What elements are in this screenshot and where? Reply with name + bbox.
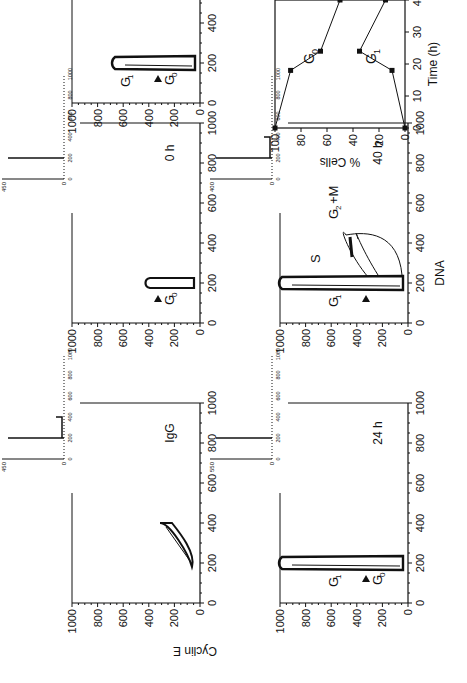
x-tick-label: 0	[411, 125, 423, 131]
inset-ymin: 0	[269, 181, 275, 185]
inset-tick-label: 800	[67, 370, 73, 379]
x-tick-label: 800	[414, 154, 426, 172]
x-tick-label: 600	[414, 194, 426, 212]
x-tick-label: 0	[206, 320, 218, 326]
x-tick-label: 400	[206, 234, 218, 252]
y-tick-label: 1000	[274, 609, 286, 633]
y-tick-label: 1000	[66, 109, 78, 133]
x-tick-label: 400	[206, 14, 218, 32]
arrowhead-marker	[362, 575, 370, 582]
y-tick-label: 1000	[66, 609, 78, 633]
y-tick-label: 0	[194, 329, 206, 335]
y-tick-label: 0	[402, 329, 414, 335]
y-tick-label: 0	[402, 609, 414, 615]
x-tick-label: 0	[206, 100, 218, 106]
annotation-g0-subscript: 0	[170, 72, 179, 77]
y-tick-label: 100	[269, 134, 281, 152]
y-tick-label: 800	[300, 329, 312, 347]
x-tick-label: 600	[206, 474, 218, 492]
y-tick-label: 400	[143, 329, 155, 347]
y-tick-label: 600	[117, 609, 129, 627]
y-tick-label: 60	[321, 134, 333, 146]
inset-tick-label: 200	[67, 433, 73, 442]
x-tick-label: 10	[411, 90, 423, 102]
x-tick-label: 1000	[206, 391, 218, 415]
arrowhead-marker	[154, 75, 162, 82]
figure: 0020020040040060060080080010001000IgG045…	[0, 0, 467, 683]
contour-plot	[112, 56, 195, 70]
flow-panel-24h: 0020020040040060060080080010001000G0G124…	[209, 348, 426, 634]
contour-plot	[160, 523, 193, 567]
annotation-g2m-subscript: 2	[334, 205, 343, 210]
annotation-g1-subscript: 1	[334, 294, 343, 299]
y-tick-label: 800	[300, 609, 312, 627]
annotation-g1-subscript: 1	[334, 574, 343, 579]
y-axis-label: Cyclin E	[173, 644, 217, 658]
inset-ymin: 0	[61, 181, 67, 185]
y-tick-label: 200	[376, 329, 388, 347]
inset-histogram: 040002004006008001000	[209, 68, 281, 192]
series-label: G	[363, 53, 379, 64]
y-tick-label: 400	[143, 109, 155, 127]
x-tick-label: 200	[206, 54, 218, 72]
x-tick-label: 800	[206, 434, 218, 452]
inset-tick-label: 800	[275, 370, 281, 379]
y-tick-label: 200	[376, 609, 388, 627]
x-tick-label: 1000	[414, 111, 426, 135]
y-tick-label: 1000	[66, 329, 78, 353]
y-tick-label: 600	[117, 109, 129, 127]
x-tick-label: 800	[414, 434, 426, 452]
x-tick-label: 20	[411, 58, 423, 70]
flow-panel-40h: 0020020040040060060080080010001000G1SG2+…	[209, 68, 426, 354]
inset-tick-label: 0	[275, 457, 281, 460]
series-label-subscript: 0	[310, 49, 320, 54]
panel-label: IgG	[163, 423, 177, 442]
chart-xlabel: Time (h)	[426, 42, 440, 86]
flow-panel-0h: 0020020040040060060080080010001000G00 h0…	[1, 68, 218, 354]
contour-plot	[279, 232, 403, 290]
inset-tick-label: 800	[275, 90, 281, 99]
series-label: G	[301, 53, 317, 64]
x-tick-label: 0	[414, 320, 426, 326]
flow-panel-igg: 0020020040040060060080080010001000IgG045…	[1, 348, 218, 634]
inset-tick-label: 400	[67, 412, 73, 421]
x-tick-label: 200	[206, 554, 218, 572]
annotation-g1-subscript: 1	[126, 74, 135, 79]
series-label-subscript: 1	[372, 49, 382, 54]
y-tick-label: 80	[295, 134, 307, 146]
inset-tick-label: 400	[275, 412, 281, 421]
y-tick-label: 400	[351, 329, 363, 347]
x-tick-label: 1000	[414, 391, 426, 415]
series-g0: G0	[273, 0, 343, 131]
inset-tick-label: 200	[275, 433, 281, 442]
inset-tick-label: 0	[275, 177, 281, 180]
y-tick-label: 200	[168, 609, 180, 627]
y-tick-label: 200	[168, 109, 180, 127]
x-tick-label: 200	[206, 274, 218, 292]
x-tick-label: 0	[206, 600, 218, 606]
y-tick-label: 1000	[274, 329, 286, 353]
y-tick-label: 800	[92, 609, 104, 627]
inset-ymax: 450	[1, 181, 7, 192]
annotation-g2m-suffix: +M	[326, 186, 341, 204]
y-tick-label: 0	[194, 109, 206, 115]
y-tick-label: 200	[168, 329, 180, 347]
annotation-g0-subscript: 0	[378, 572, 387, 577]
x-tick-label: 400	[414, 234, 426, 252]
y-tick-label: 20	[373, 134, 385, 146]
inset-histogram: 055002004006008001000	[209, 348, 281, 472]
x-tick-label: 800	[206, 154, 218, 172]
x-tick-label: 200	[414, 274, 426, 292]
annotation-g2m: G	[326, 209, 341, 219]
contour-plot	[279, 556, 403, 570]
y-tick-label: 40	[347, 134, 359, 146]
y-tick-label: 800	[92, 109, 104, 127]
inset-tick-label: 400	[67, 132, 73, 141]
y-tick-label: 400	[143, 609, 155, 627]
x-tick-label: 400	[414, 514, 426, 532]
x-tick-label: 40	[411, 0, 423, 6]
annotation-g0-subscript: 0	[170, 292, 179, 297]
inset-ymin: 0	[269, 461, 275, 465]
x-tick-label: 400	[206, 514, 218, 532]
series-g1: G1	[357, 0, 408, 131]
